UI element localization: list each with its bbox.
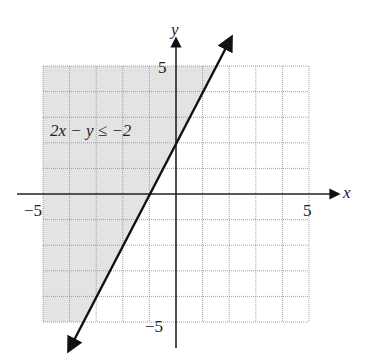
y-axis-label: y: [169, 20, 179, 39]
x-axis-label: x: [342, 183, 351, 202]
y-tick-label-5: 5: [158, 58, 167, 77]
y-tick-label-neg5: −5: [145, 317, 163, 336]
x-tick-label-5: 5: [303, 201, 312, 220]
coordinate-plane: x y −5 5 5 −5 2x − y ≤ −2: [0, 0, 371, 361]
inequality-label: 2x − y ≤ −2: [50, 121, 132, 140]
x-tick-label-neg5: −5: [24, 201, 42, 220]
